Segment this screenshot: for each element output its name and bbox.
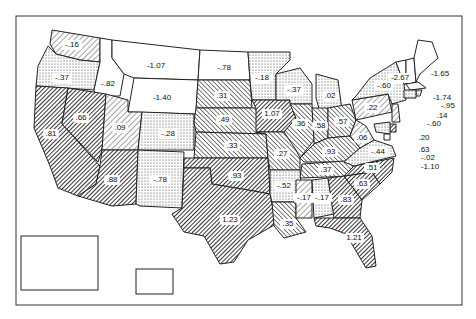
state-value-vt: -2.67 (391, 73, 410, 82)
us-state-map: -.16-.37-.82-1.07-1.40.81.66.09.88-.28-.… (0, 0, 476, 319)
state-value-az: .88 (106, 175, 118, 184)
state-dc (384, 134, 390, 140)
state-value-wi: -.37 (287, 85, 301, 94)
state-value-il: .36 (294, 119, 306, 128)
state-value-ct: -.60 (427, 119, 441, 128)
state-value-al: -.17 (315, 193, 329, 202)
state-value-wv: .06 (356, 133, 368, 142)
state-value-ky: .93 (324, 147, 336, 156)
state-value-va: -.44 (371, 147, 385, 156)
state-value-nm: -.78 (153, 175, 167, 184)
state-value-sc: .63 (356, 179, 368, 188)
state-value-or: -.37 (55, 73, 69, 82)
state-value-id: -.82 (101, 79, 115, 88)
state-value-ar: -.52 (277, 181, 291, 190)
state-value-mi: .02 (324, 91, 336, 100)
state-value-pa: .22 (366, 103, 378, 112)
state-value-mt: -1.07 (147, 61, 166, 70)
state-value-wa: -.16 (65, 40, 79, 49)
alaska-inset-frame (21, 236, 98, 290)
state-md (374, 122, 390, 134)
state-value-nv: .66 (75, 113, 87, 122)
state-value-nd: -.78 (217, 63, 231, 72)
state-value-nj: .20 (418, 133, 430, 142)
state-de (390, 124, 396, 132)
state-value-ut: .09 (114, 123, 126, 132)
state-value-in: .58 (314, 121, 326, 130)
state-value-ma: -.95 (441, 101, 455, 110)
state-value-tn: .37 (320, 165, 332, 174)
hawaii-inset-frame (136, 269, 173, 294)
state-value-ms: -.17 (297, 193, 311, 202)
state-value-mn: -.18 (255, 73, 269, 82)
state-value-ga: .83 (340, 195, 352, 204)
state-value-nc: .51 (366, 163, 378, 172)
state-value-ks: .33 (226, 141, 238, 150)
state-ct (404, 90, 416, 98)
state-value-ok: .93 (230, 171, 242, 180)
state-value-ne: .49 (218, 115, 230, 124)
state-nj (392, 104, 400, 122)
state-value-md: -.02 (421, 153, 435, 162)
state-value-oh: .57 (336, 117, 348, 126)
state-value-co: -.28 (161, 129, 175, 138)
state-value-la: .35 (282, 219, 294, 228)
state-value-ca: .81 (45, 129, 57, 138)
state-value-wy: -1.40 (153, 93, 172, 102)
state-value-sd: .31 (216, 91, 228, 100)
state-value-ia: 1.07 (264, 109, 280, 118)
state-value-dc: -1.10 (421, 162, 440, 171)
state-value-me: -1.65 (431, 69, 450, 78)
state-value-tx: 1.23 (222, 215, 238, 224)
state-value-mo: .27 (276, 149, 288, 158)
state-value-fl: 1.21 (346, 233, 362, 242)
